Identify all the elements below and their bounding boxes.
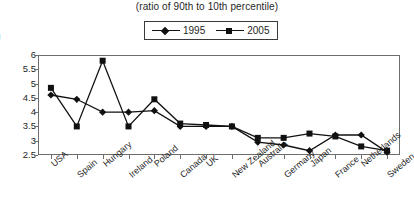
x-tick-label: Japan <box>308 161 314 169</box>
x-tick-label: New Zealand <box>230 172 236 180</box>
data-point-1995[interactable] <box>73 96 80 103</box>
data-point-2005[interactable] <box>255 135 261 141</box>
data-point-2005[interactable] <box>177 121 183 127</box>
y-tick-label: 4 <box>2 106 36 117</box>
y-tick-label: 6 <box>2 49 36 60</box>
plot-series-layer <box>38 55 400 155</box>
data-point-2005[interactable] <box>100 58 106 64</box>
y-tick-label: 5.5 <box>2 63 36 74</box>
x-tick-label: Australia <box>256 161 262 169</box>
legend-entry-2005[interactable]: 2005 <box>216 25 269 36</box>
x-tick-label: Spain <box>75 172 81 180</box>
legend-entry-1995[interactable]: 1995 <box>152 25 205 36</box>
x-tick-mark <box>387 155 388 159</box>
x-tick-label: Germany <box>282 172 288 180</box>
x-tick-label: Canada <box>178 172 184 180</box>
x-tick-mark <box>284 155 285 159</box>
x-tick-label: Poland <box>152 161 158 169</box>
data-point-1995[interactable] <box>99 109 106 116</box>
x-tick-mark <box>129 155 130 159</box>
data-point-1995[interactable] <box>151 107 158 114</box>
x-tick-mark <box>77 155 78 159</box>
data-point-1995[interactable] <box>358 131 365 138</box>
legend-label-2005: 2005 <box>247 25 269 36</box>
x-tick-label: Netherlands <box>359 161 365 169</box>
x-tick-label: Sweden <box>385 172 391 180</box>
legend-label-1995: 1995 <box>183 25 205 36</box>
data-point-2005[interactable] <box>74 123 80 129</box>
x-tick-mark <box>232 155 233 159</box>
chart-container: (ratio of 90th to 10th percentile) ) 199… <box>0 0 414 218</box>
legend-marker-square-icon <box>216 26 244 36</box>
chart-subtitle: (ratio of 90th to 10th percentile) <box>0 1 414 12</box>
x-tick-label: Hungary <box>101 161 107 169</box>
data-point-2005[interactable] <box>229 123 235 129</box>
x-tick-label: France <box>333 172 339 180</box>
y-tick-label: 3.5 <box>2 120 36 131</box>
data-point-1995[interactable] <box>125 109 132 116</box>
x-tick-label: USA <box>49 161 55 169</box>
x-tick-label: UK <box>204 161 210 169</box>
chart-legend: 1995 2005 <box>144 21 278 40</box>
data-point-2005[interactable] <box>48 85 54 91</box>
x-tick-mark <box>335 155 336 159</box>
y-tick-label: 2.5 <box>2 149 36 160</box>
data-point-2005[interactable] <box>203 122 209 128</box>
data-point-2005[interactable] <box>307 131 313 137</box>
x-tick-label: Ireland <box>127 172 133 180</box>
x-axis: USASpainHungaryIrelandPolandCanadaUKNew … <box>38 155 400 218</box>
series-line-1995 <box>51 95 387 152</box>
data-point-2005[interactable] <box>126 123 132 129</box>
data-point-2005[interactable] <box>358 143 364 149</box>
data-point-2005[interactable] <box>332 133 338 139</box>
y-tick-label: 3 <box>2 135 36 146</box>
y-tick-label: 5 <box>2 78 36 89</box>
clipped-edge-glyph: ) <box>0 27 1 44</box>
y-axis: 2.533.544.555.56 <box>0 55 36 155</box>
data-point-2005[interactable] <box>151 96 157 102</box>
y-tick-label: 4.5 <box>2 92 36 103</box>
x-tick-mark <box>180 155 181 159</box>
legend-marker-diamond-icon <box>152 26 180 36</box>
